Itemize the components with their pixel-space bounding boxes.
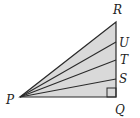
triangle-diagram: R U T S Q P <box>0 0 140 118</box>
triangle-pqr <box>20 22 116 97</box>
label-p: P <box>5 93 15 107</box>
label-q: Q <box>115 103 125 117</box>
label-t: T <box>120 53 129 67</box>
label-u: U <box>119 36 130 50</box>
label-s: S <box>119 72 127 86</box>
label-r: R <box>112 3 122 17</box>
